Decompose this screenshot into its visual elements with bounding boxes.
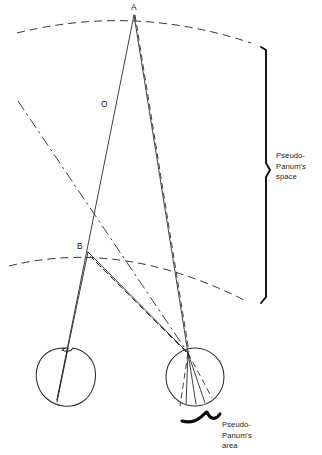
ray-a-to-left-eye (57, 15, 134, 400)
left-eye (36, 348, 95, 406)
area-brace-shape (182, 412, 220, 422)
space-label-line-2: Panum's (276, 162, 306, 171)
solid-ray-group (57, 15, 188, 400)
ray-a-to-right-eye (134, 15, 188, 353)
dashed-ray-group (90, 15, 189, 354)
point-label-b: B (77, 241, 83, 251)
dashdot-group (18, 101, 188, 353)
right-eye-retinal-ray-5 (188, 353, 196, 404)
pseudo-panum-space-label: Pseudo- Panum's space (276, 151, 306, 181)
left-eye-visual-axis (57, 348, 68, 402)
upper-horopter-arc (17, 21, 251, 43)
space-brace-shape (261, 47, 270, 303)
space-label-line-1: Pseudo- (276, 151, 305, 160)
right-eye-retinal-ray-1 (186, 353, 188, 405)
pseudo-panum-space-brace (261, 47, 270, 303)
area-label-line-1: Pseudo- (222, 420, 251, 429)
area-label-line-2: Panum's (222, 431, 252, 440)
area-label-line-3: area (222, 441, 238, 450)
diagram-canvas: Pseudo- Panum's space Pseudo- Panum's ar… (0, 0, 322, 455)
point-labels: A O B (77, 2, 137, 251)
pseudo-panum-area-brace (182, 412, 220, 422)
right-eye (166, 348, 224, 406)
right-eye-retinal-ray-2 (188, 353, 205, 403)
arc-group (9, 21, 251, 301)
dashdot-visual-axis (18, 101, 188, 353)
optics-diagram-svg: Pseudo- Panum's space Pseudo- Panum's ar… (0, 0, 322, 455)
point-label-a: A (131, 2, 137, 12)
dashed-ray-a-to-right-eye (135, 15, 189, 352)
pseudo-panum-area-label: Pseudo- Panum's area (222, 420, 252, 450)
space-label-line-3: space (276, 172, 297, 181)
ray-b-to-right-eye (88, 252, 188, 353)
point-label-o: O (101, 99, 108, 109)
dashed-ray-b-upper (96, 262, 189, 354)
